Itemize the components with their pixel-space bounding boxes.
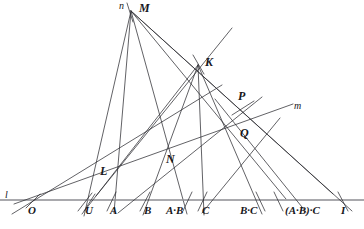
baseline-label-AB-dot-C: (A·B)·C	[285, 205, 320, 216]
line-K-to-B	[143, 65, 198, 215]
line-m-to-A	[114, 11, 131, 213]
baseline-label-B-dot-C: B·C	[240, 205, 257, 216]
line-K-to-C	[198, 65, 204, 215]
baseline-label-A-dot-B: A·B	[166, 205, 183, 216]
line-label-l: l	[5, 190, 8, 200]
line-m-to-AB	[131, 11, 187, 214]
geometry-figure-canvas: M K P Q N L l n m O U A B A·B C B·C (A·B…	[0, 0, 364, 229]
line-K-to-BC	[198, 65, 262, 214]
baseline-label-A: A	[110, 205, 117, 216]
baseline-label-I: I	[341, 205, 345, 216]
baseline-label-U: U	[85, 205, 93, 216]
line-m-to-U	[84, 11, 131, 216]
point-label-N: N	[166, 153, 175, 165]
baseline-label-O: O	[28, 205, 36, 216]
line-label-n: n	[119, 1, 124, 11]
line-L-to-K	[96, 28, 232, 196]
construction-svg	[0, 0, 364, 229]
point-label-M: M	[139, 2, 150, 14]
point-label-L: L	[100, 165, 107, 177]
line-label-m: m	[294, 101, 301, 111]
baseline-label-C: C	[202, 205, 209, 216]
line-m-to-Q-BC	[131, 11, 286, 199]
point-label-K: K	[205, 56, 213, 68]
point-label-Q: Q	[240, 127, 249, 139]
tick-AB	[183, 192, 192, 211]
baseline-label-B: B	[144, 205, 151, 216]
line-M-K-to-I	[131, 11, 352, 211]
tick-ABC	[274, 192, 283, 211]
point-label-P: P	[238, 90, 245, 102]
